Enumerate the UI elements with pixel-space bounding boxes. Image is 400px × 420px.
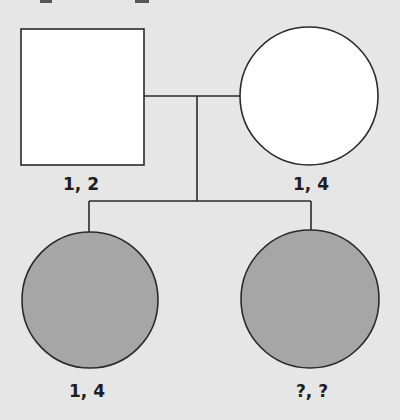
daughter-1-circle — [22, 232, 158, 368]
pedigree-chart: 1, 2 1, 4 1, 4 ?, ? — [0, 0, 400, 420]
mother-circle — [240, 27, 378, 165]
daughter-2-circle — [241, 230, 379, 368]
mother-label: 1, 4 — [293, 174, 329, 194]
father-square — [21, 29, 144, 165]
daughter-1-label: 1, 4 — [69, 381, 105, 401]
father-label: 1, 2 — [63, 174, 99, 194]
daughter-2-label: ?, ? — [296, 381, 328, 401]
cropped-caption-fragment — [40, 0, 149, 3]
